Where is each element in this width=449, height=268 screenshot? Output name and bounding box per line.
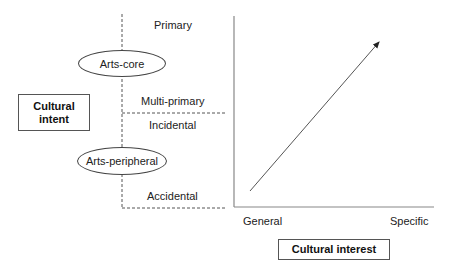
category-incidental: Incidental bbox=[149, 119, 196, 131]
cultural-interest-label: Cultural interest bbox=[292, 243, 376, 256]
cultural-interest-label-box: Cultural interest bbox=[278, 239, 390, 260]
arts-core-label: Arts-core bbox=[100, 58, 145, 70]
cultural-intent-line1: Cultural bbox=[33, 100, 75, 113]
category-primary: Primary bbox=[154, 19, 192, 31]
category-multi-primary: Multi-primary bbox=[141, 95, 205, 107]
arts-core-node: Arts-core bbox=[78, 50, 166, 77]
cultural-intent-line2: intent bbox=[39, 113, 69, 126]
arts-peripheral-label: Arts-peripheral bbox=[86, 155, 158, 167]
arts-peripheral-node: Arts-peripheral bbox=[77, 147, 167, 175]
cultural-intent-label-box: Cultural intent bbox=[18, 94, 90, 131]
x-tick-general: General bbox=[243, 215, 282, 227]
x-tick-specific: Specific bbox=[390, 215, 429, 227]
trend-arrow bbox=[250, 42, 379, 191]
category-accidental: Accidental bbox=[147, 190, 198, 202]
diagram-lines bbox=[0, 0, 449, 268]
